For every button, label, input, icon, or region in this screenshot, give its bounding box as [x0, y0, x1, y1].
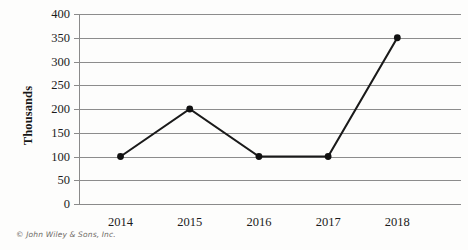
x-tick-label-text: 2015 — [177, 215, 202, 229]
y-tick-mark-350 — [74, 38, 79, 39]
y-tick-mark-0 — [74, 204, 79, 205]
gridline-150 — [79, 133, 461, 134]
y-tick-label: 150 — [38, 127, 70, 140]
gridline-200 — [79, 109, 461, 110]
plot-area — [79, 14, 461, 204]
line-chart-figure: Thousands © John Wiley & Sons, Inc. 4003… — [0, 0, 468, 250]
y-tick-mark-200 — [74, 109, 79, 110]
x-tick-label-2018: 2018 — [367, 212, 427, 230]
x-tick-label-text: 2017 — [316, 215, 341, 229]
copyright-notice: © John Wiley & Sons, Inc. — [16, 230, 116, 239]
x-tick-label-2017: 2017 — [298, 212, 358, 230]
x-tick-label-2016: 2016 — [229, 212, 289, 230]
x-tick-label-2014: 2014 — [91, 212, 151, 230]
y-tick-mark-300 — [74, 62, 79, 63]
y-tick-label: 200 — [38, 103, 70, 116]
x-tick-label-2015: 2015 — [160, 212, 220, 230]
y-tick-mark-50 — [74, 180, 79, 181]
gridline-250 — [79, 85, 461, 86]
gridline-50 — [79, 180, 461, 181]
y-tick-label: 350 — [38, 32, 70, 45]
x-tick-label-text: 2018 — [385, 215, 410, 229]
gridline-100 — [79, 157, 461, 158]
y-axis-title: Thousands — [18, 60, 40, 170]
y-tick-label: 400 — [38, 8, 70, 21]
y-tick-label: 0 — [38, 198, 70, 211]
gridline-0 — [79, 204, 461, 205]
y-tick-label: 300 — [38, 56, 70, 69]
x-tick-label-text: 2016 — [246, 215, 271, 229]
gridline-400 — [79, 14, 461, 15]
y-tick-label: 100 — [38, 151, 70, 164]
gridline-350 — [79, 38, 461, 39]
y-tick-label: 50 — [38, 174, 70, 187]
x-tick-label-text: 2014 — [108, 215, 133, 229]
y-tick-label: 250 — [38, 79, 70, 92]
y-tick-mark-250 — [74, 85, 79, 86]
y-axis-title-label: Thousands — [22, 85, 37, 144]
y-tick-mark-150 — [74, 133, 79, 134]
y-tick-mark-400 — [74, 14, 79, 15]
gridline-300 — [79, 62, 461, 63]
y-tick-mark-100 — [74, 157, 79, 158]
